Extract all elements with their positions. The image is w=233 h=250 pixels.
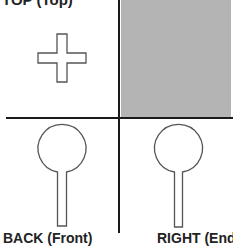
right-pin-shape (155, 124, 203, 227)
orthographic-shapes (0, 0, 233, 250)
plus-sign-icon (38, 34, 86, 82)
right-end-label: RIGHT (End) (157, 230, 233, 246)
back-pin-shape (38, 124, 86, 226)
back-front-label: BACK (Front) (3, 230, 92, 246)
